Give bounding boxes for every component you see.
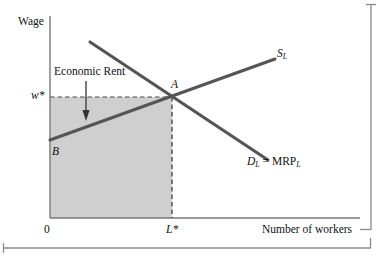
origin-label: 0 [44,224,50,236]
supply-curve-label: SL [277,48,287,61]
y-tick-label-w-star: w* [31,90,44,102]
demand-curve-label: DL = MRPL [247,156,301,169]
point-a-label: A [171,79,178,91]
figure-root: Wage Economic Rent w* A B SL DL = MRPL 0… [0,0,384,261]
demand-curve-label-sub2: L [296,160,300,169]
supply-curve-label-sub: L [283,52,287,61]
economic-rent-area [50,97,172,218]
y-axis-label: Wage [18,16,44,28]
x-tick-label-l-star: L* [166,224,178,236]
diagram-canvas [0,0,384,261]
economic-rent-label: Economic Rent [54,66,125,78]
x-tick-label-text: L* [166,223,178,235]
demand-curve-label-equals: = MRP [260,155,297,167]
y-tick-label-text: w* [31,89,44,101]
x-axis-label: Number of workers [262,224,352,236]
point-b-label: B [52,146,59,158]
